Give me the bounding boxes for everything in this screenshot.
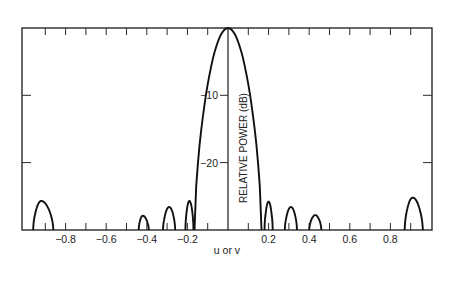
x-tick-label: 0.6 bbox=[342, 233, 357, 245]
x-tick-label: −0.6 bbox=[96, 233, 117, 245]
y-tick-label: −10 bbox=[200, 89, 218, 101]
sidelobe-curve bbox=[185, 201, 193, 230]
x-axis-label: u or v bbox=[214, 244, 241, 256]
y-tick-labels: −10−20 bbox=[200, 89, 218, 168]
x-tick-label: 0.4 bbox=[302, 233, 317, 245]
plot-border bbox=[22, 28, 432, 230]
axis-ticks bbox=[22, 28, 432, 230]
x-tick-label: −0.4 bbox=[136, 233, 157, 245]
sidelobe-curve bbox=[285, 207, 297, 230]
sidelobe-curve bbox=[33, 201, 53, 230]
x-tick-label: −0.2 bbox=[177, 233, 198, 245]
sidelobe-curve bbox=[309, 215, 321, 230]
y-axis-label: RELATIVE POWER (dB) bbox=[238, 93, 249, 203]
x-tick-label: −0.8 bbox=[55, 233, 76, 245]
sidelobe-curve bbox=[405, 198, 423, 230]
x-tick-label: 0.2 bbox=[261, 233, 276, 245]
y-tick-label: −20 bbox=[200, 157, 218, 169]
x-tick-label: 0.8 bbox=[383, 233, 398, 245]
plot-frame bbox=[22, 28, 432, 230]
antenna-pattern-chart: −0.8−0.6−0.4−0.20.20.40.60.8 −10−20 u or… bbox=[0, 0, 451, 281]
sidelobe-curve bbox=[163, 207, 175, 230]
